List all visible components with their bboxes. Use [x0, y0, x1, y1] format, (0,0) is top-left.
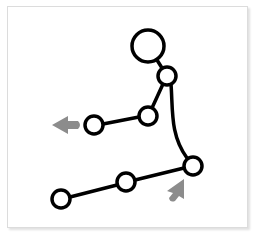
upper-arm-segment	[152, 84, 163, 108]
foot-joint	[52, 190, 70, 208]
elbow-joint	[139, 107, 157, 125]
forearm-segment	[103, 117, 139, 124]
hip-joint	[184, 157, 202, 175]
hand-joint	[85, 116, 103, 134]
stick-figure-diagram	[0, 0, 259, 233]
arrow-up-right-icon	[167, 179, 184, 202]
neck-joint	[158, 67, 176, 85]
knee-joint	[117, 173, 135, 191]
neck-segment	[157, 60, 162, 68]
thigh-segment	[135, 168, 184, 180]
shin-segment	[70, 185, 117, 197]
spine-segment	[171, 84, 187, 158]
head-joint	[132, 30, 164, 62]
arrow-left-icon	[52, 116, 80, 134]
